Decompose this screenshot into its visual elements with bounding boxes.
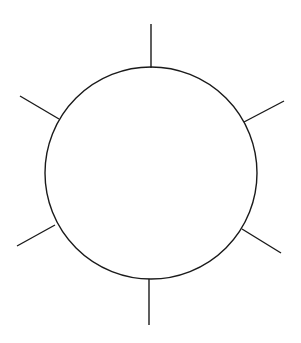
spoke-upper-right [244, 101, 284, 122]
spoke-lower-right [242, 229, 281, 253]
circle [45, 67, 257, 279]
spoke-upper-left [20, 96, 59, 119]
spokes-group [17, 24, 284, 325]
diagram-canvas [0, 0, 301, 343]
spoke-lower-left [17, 225, 55, 246]
